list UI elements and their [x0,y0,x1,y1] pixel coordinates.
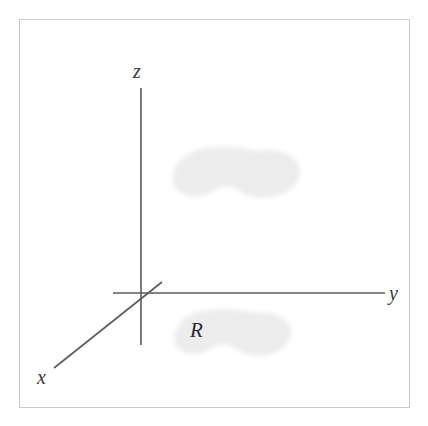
z-axis-label: z [133,61,141,81]
upper-region-blob [173,147,301,198]
x-axis-line [54,282,162,368]
y-axis-label: y [389,283,398,303]
x-axis-label: x [37,367,46,387]
figure-root: z y x R [0,0,428,426]
coordinate-axes-diagram [0,0,428,426]
region-label-R: R [190,320,203,341]
